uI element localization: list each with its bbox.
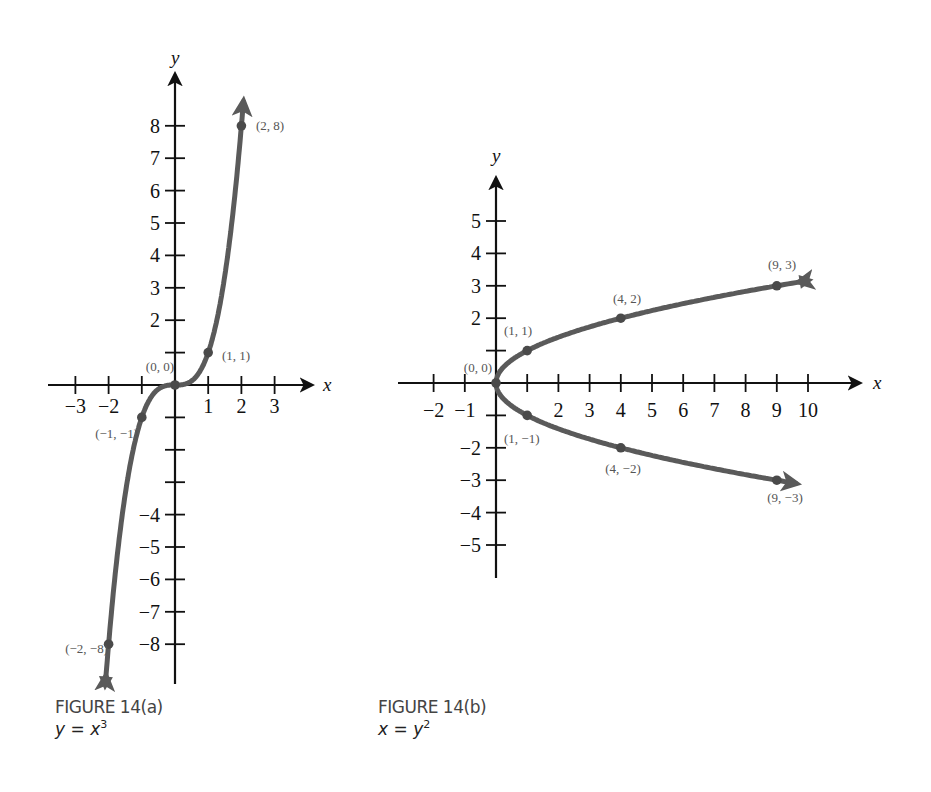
figure-14b-equation: x = y2 [378,718,486,739]
y-tick-label: 2 [150,309,160,331]
y-tick-label: −7 [139,601,160,623]
data-point [491,378,501,388]
x-tick-label: 1 [203,395,213,417]
figure-page: xy−3−2123−8−7−6−5−42345678(2, 8)(1, 1)(0… [0,0,931,792]
x-tick-label: 2 [553,399,563,421]
y-tick-label: −8 [139,633,160,655]
y-axis-label: y [169,47,180,68]
point-label: (1, −1) [504,431,540,446]
figure-14a-title: FIGURE 14(a) [55,697,163,717]
y-tick-label: 4 [471,242,481,264]
curve-arrow-start-icon [99,676,113,691]
y-tick-label: −5 [139,536,160,558]
figure-14a-caption: FIGURE 14(a) y = x3 [55,697,163,739]
y-tick-label: 3 [471,275,481,297]
point-label: (4, 2) [613,291,641,306]
point-label: (1, 1) [222,348,250,363]
curve-arrow-start-icon [799,275,814,289]
x-axis-label: x [322,374,332,395]
data-point [772,475,782,485]
figure-14a-plot: xy−3−2123−8−7−6−5−42345678(2, 8)(1, 1)(0… [48,47,332,691]
data-point [522,411,532,421]
point-label: (0, 0) [464,360,492,375]
y-axis-label: y [490,145,501,166]
y-tick-label: −2 [460,437,481,459]
data-point [616,443,626,453]
y-tick-label: 3 [150,277,160,299]
data-point [170,380,180,390]
data-point [522,346,532,356]
y-tick-label: 6 [150,180,160,202]
point-label: (−1, −1) [95,426,138,441]
x-tick-label: 4 [616,399,626,421]
eq-rhs: x [90,719,100,739]
x-tick-label: 3 [585,399,595,421]
y-tick-label: 4 [150,244,160,266]
data-point [237,121,247,131]
y-tick-label: 7 [150,147,160,169]
point-label: (0, 0) [146,359,174,374]
eq-rhs: y [413,719,423,739]
y-tick-label: 5 [150,212,160,234]
eq-lhs: y [55,719,65,739]
y-tick-label: −5 [460,534,481,556]
eq-lhs: x [378,719,388,739]
eq-exponent: 3 [100,718,107,731]
x-tick-label: 7 [709,399,719,421]
data-point [137,413,147,423]
y-tick-label: 2 [471,307,481,329]
data-point [772,281,782,291]
figure-14b-plot: xy−2−12345678910−5−4−3−22345(9, 3)(4, 2)… [398,145,882,578]
x-tick-label: 8 [741,399,751,421]
x-axis-label: x [872,372,882,393]
y-tick-label: −4 [139,504,160,526]
y-tick-label: −6 [139,568,160,590]
eq-equals: = [388,719,413,739]
x-tick-label: 6 [678,399,688,421]
y-tick-label: 5 [471,210,481,232]
x-tick-label: −1 [454,399,475,421]
y-tick-label: −4 [460,502,481,524]
x-tick-label: 2 [236,395,246,417]
x-tick-label: 10 [798,399,818,421]
eq-equals: = [65,719,90,739]
point-label: (9, 3) [768,257,796,272]
data-point [616,313,626,323]
point-label: (2, 8) [256,118,284,133]
x-tick-label: −3 [65,395,86,417]
x-tick-label: 3 [270,395,280,417]
figures-canvas: xy−3−2123−8−7−6−5−42345678(2, 8)(1, 1)(0… [0,0,931,792]
point-label: (4, −2) [605,461,641,476]
x-tick-label: 5 [647,399,657,421]
x-tick-label: −2 [98,395,119,417]
y-tick-label: −3 [460,469,481,491]
figure-14a-equation: y = x3 [55,718,163,739]
x-tick-label: −2 [423,399,444,421]
point-label: (−2, −8) [65,641,108,656]
point-label: (1, 1) [504,323,532,338]
eq-exponent: 2 [423,718,430,731]
y-tick-label: 8 [150,115,160,137]
figure-14b-title: FIGURE 14(b) [378,697,486,717]
x-tick-label: 9 [772,399,782,421]
data-point [203,348,213,358]
figure-14b-caption: FIGURE 14(b) x = y2 [378,697,486,739]
point-label: (9, −3) [767,490,803,505]
